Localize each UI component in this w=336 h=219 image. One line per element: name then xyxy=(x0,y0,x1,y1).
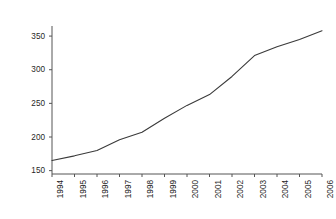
x-tick-label: 1994 xyxy=(56,180,65,219)
x-tick-label: 2002 xyxy=(236,180,245,219)
y-tick-label: 250 xyxy=(21,99,45,108)
x-tick-label: 2004 xyxy=(281,180,290,219)
y-tick-label: 150 xyxy=(21,166,45,175)
x-tick-label: 1999 xyxy=(169,180,178,219)
x-tick-label: 1998 xyxy=(146,180,155,219)
data-series-line xyxy=(52,31,322,161)
y-tick-label: 300 xyxy=(21,65,45,74)
y-tick-label: 200 xyxy=(21,133,45,142)
line-chart-figure: Incarcerated Population per 100,000 inha… xyxy=(0,0,336,219)
y-tick-label: 350 xyxy=(21,32,45,41)
x-tick-label: 2000 xyxy=(191,180,200,219)
x-tick-label: 1997 xyxy=(124,180,133,219)
x-tick-label: 2006 xyxy=(326,180,335,219)
x-tick-label: 2001 xyxy=(214,180,223,219)
x-tick-label: 2005 xyxy=(304,180,313,219)
x-tick-label: 1995 xyxy=(79,180,88,219)
x-tick-label: 1996 xyxy=(101,180,110,219)
x-tick-label: 2003 xyxy=(259,180,268,219)
